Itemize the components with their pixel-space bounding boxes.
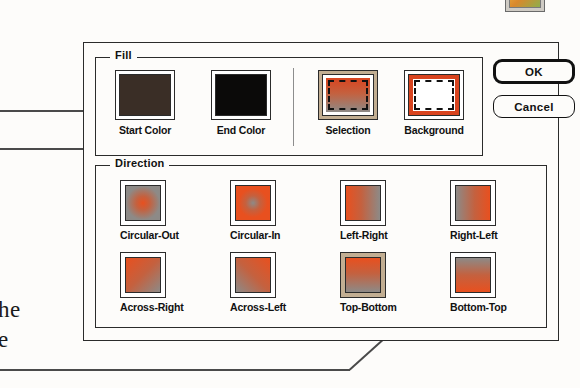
- swatch-frame: [115, 70, 175, 120]
- swatch-fill: [215, 74, 267, 116]
- direction-frame: [450, 180, 496, 226]
- body-text-fragment: he: [0, 297, 21, 323]
- palette-thumbnail-swatch: [509, 0, 541, 8]
- swatch-fill: [408, 74, 460, 116]
- direction-label: Left-Right: [340, 229, 388, 241]
- swatch-label: Start Color: [115, 124, 175, 136]
- palette-thumbnail-icon[interactable]: [505, 0, 545, 12]
- direction-preview: [125, 185, 161, 221]
- direction-option-across-right[interactable]: Across-Right: [120, 252, 184, 313]
- selection-marquee-icon: [414, 80, 454, 110]
- direction-preview: [345, 257, 381, 293]
- swatch-fill: [119, 74, 171, 116]
- direction-preview: [345, 185, 381, 221]
- fill-group: Fill Start Color End Color: [95, 57, 483, 156]
- direction-preview: [455, 185, 491, 221]
- direction-group: Direction Circular-Out Circular-In Left-…: [95, 165, 547, 328]
- direction-option-right-left[interactable]: Right-Left: [450, 180, 498, 241]
- selection-marquee-icon: [328, 80, 368, 110]
- direction-group-legend: Direction: [110, 157, 169, 169]
- ok-button[interactable]: OK: [493, 59, 575, 84]
- swatch-end-color[interactable]: End Color: [211, 70, 271, 136]
- swatch-label: End Color: [211, 124, 271, 136]
- direction-frame: [450, 252, 496, 298]
- direction-label: Across-Left: [230, 301, 286, 313]
- leader-line-bottom-rule: [0, 369, 350, 371]
- swatch-label: Background: [404, 124, 464, 136]
- scanned-page: he e Fill Start Color End: [0, 0, 580, 388]
- direction-option-top-bottom[interactable]: Top-Bottom: [340, 252, 397, 313]
- swatch-frame: [318, 70, 378, 120]
- swatch-label: Selection: [318, 124, 378, 136]
- direction-option-circular-out[interactable]: Circular-Out: [120, 180, 179, 241]
- direction-option-left-right[interactable]: Left-Right: [340, 180, 388, 241]
- direction-label: Top-Bottom: [340, 301, 397, 313]
- swatch-selection[interactable]: Selection: [318, 70, 378, 136]
- swatch-start-color[interactable]: Start Color: [115, 70, 175, 136]
- cancel-button[interactable]: Cancel: [493, 95, 575, 118]
- direction-preview: [455, 257, 491, 293]
- direction-label: Circular-Out: [120, 229, 179, 241]
- direction-label: Right-Left: [450, 229, 498, 241]
- direction-frame: [230, 180, 276, 226]
- direction-label: Circular-In: [230, 229, 280, 241]
- direction-label: Bottom-Top: [450, 301, 507, 313]
- direction-option-across-left[interactable]: Across-Left: [230, 252, 286, 313]
- direction-frame: [230, 252, 276, 298]
- direction-label: Across-Right: [120, 301, 184, 313]
- swatch-fill: [322, 74, 374, 116]
- body-text-fragment: e: [0, 327, 9, 353]
- direction-option-circular-in[interactable]: Circular-In: [230, 180, 280, 241]
- direction-preview: [235, 257, 271, 293]
- direction-frame: [340, 252, 386, 298]
- direction-preview: [125, 257, 161, 293]
- direction-frame: [120, 180, 166, 226]
- direction-preview: [235, 185, 271, 221]
- direction-frame: [340, 180, 386, 226]
- swatch-frame: [404, 70, 464, 120]
- direction-frame: [120, 252, 166, 298]
- swatch-frame: [211, 70, 271, 120]
- swatch-background[interactable]: Background: [404, 70, 464, 136]
- fill-group-legend: Fill: [110, 49, 137, 61]
- fill-group-divider: [293, 68, 294, 146]
- gradient-fill-dialog: Fill Start Color End Color: [83, 42, 559, 341]
- direction-option-bottom-top[interactable]: Bottom-Top: [450, 252, 507, 313]
